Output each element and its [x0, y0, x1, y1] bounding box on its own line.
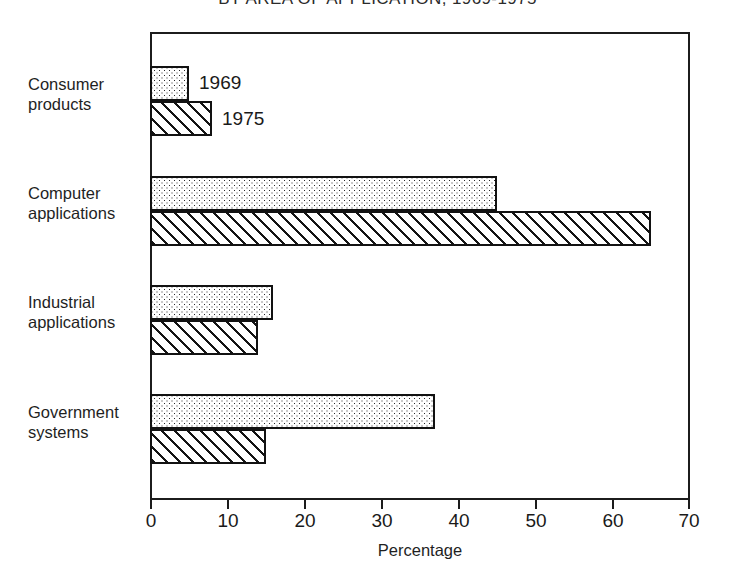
- bar-industrial-applications-1975: [150, 320, 258, 355]
- category-label-line2: applications: [28, 312, 146, 332]
- x-tick-label-20: 20: [285, 510, 325, 532]
- x-tick-mark-40: [458, 500, 460, 509]
- bar-computer-applications-1975: [150, 211, 651, 246]
- category-label-line1: Industrial: [28, 292, 146, 312]
- legend-label-1969: 1969: [199, 72, 241, 94]
- x-tick-mark-60: [612, 500, 614, 509]
- legend-label-1975: 1975: [222, 108, 264, 130]
- bar-consumer-products-1975: [150, 101, 212, 136]
- x-tick-label-70: 70: [669, 510, 709, 532]
- category-label-government-systems: Government systems: [28, 402, 146, 442]
- x-tick-mark-20: [304, 500, 306, 509]
- bar-industrial-applications-1969: [150, 285, 273, 320]
- category-label-computer-applications: Computer applications: [28, 183, 146, 223]
- bar-government-systems-1975: [150, 429, 266, 464]
- chart-title: BY AREA OF APPLICATION, 1969-1975: [0, 0, 755, 9]
- category-label-line1: Government: [28, 402, 146, 422]
- category-label-line2: applications: [28, 203, 146, 223]
- x-tick-label-60: 60: [593, 510, 633, 532]
- category-label-consumer-products: Consumer products: [28, 74, 146, 114]
- x-tick-label-40: 40: [439, 510, 479, 532]
- category-label-line1: Consumer: [28, 74, 146, 94]
- x-tick-mark-10: [227, 500, 229, 509]
- x-tick-label-0: 0: [131, 510, 171, 532]
- bar-government-systems-1969: [150, 394, 435, 429]
- x-tick-mark-70: [688, 500, 690, 509]
- x-tick-label-50: 50: [516, 510, 556, 532]
- x-axis-title: Percentage: [150, 541, 690, 560]
- category-label-line2: products: [28, 94, 146, 114]
- x-tick-label-30: 30: [362, 510, 402, 532]
- x-tick-mark-50: [535, 500, 537, 509]
- x-tick-mark-30: [381, 500, 383, 509]
- category-label-line2: systems: [28, 422, 146, 442]
- category-label-line1: Computer: [28, 183, 146, 203]
- category-label-industrial-applications: Industrial applications: [28, 292, 146, 332]
- bar-computer-applications-1969: [150, 176, 497, 211]
- x-tick-mark-0: [150, 500, 152, 509]
- x-tick-label-10: 10: [208, 510, 248, 532]
- bar-consumer-products-1969: [150, 66, 189, 101]
